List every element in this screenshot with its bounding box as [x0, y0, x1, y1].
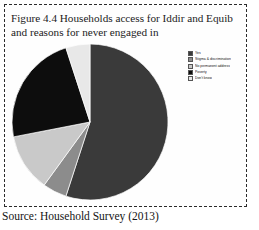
- legend-swatch-icon: [188, 64, 193, 69]
- legend-item: Stigma & discrimination: [188, 57, 246, 62]
- legend-item-label: Stigma & discrimination: [195, 57, 231, 62]
- legend-swatch-icon: [188, 70, 193, 75]
- legend-item: No permanent address: [188, 64, 246, 69]
- legend-item-label: Poverty: [195, 70, 207, 75]
- legend-swatch-icon: [188, 51, 193, 56]
- figure-frame: Figure 4.4 Households access for Iddir a…: [4, 4, 247, 207]
- pie-chart: YesStigma & discriminationNo permanent a…: [5, 5, 248, 208]
- legend-swatch-icon: [188, 76, 193, 81]
- source-caption: Source: Household Survey (2013): [2, 209, 159, 224]
- legend-item: Poverty: [188, 70, 246, 75]
- legend-swatch-icon: [188, 57, 193, 62]
- pie-chart-svg: [11, 41, 169, 203]
- pie-slice-group: [12, 44, 168, 200]
- chart-legend: YesStigma & discriminationNo permanent a…: [188, 51, 246, 82]
- legend-item-label: No permanent address: [195, 64, 230, 69]
- legend-item-label: Yes: [195, 51, 201, 56]
- legend-item: Don't know: [188, 76, 246, 81]
- legend-item-label: Don't know: [195, 76, 212, 81]
- legend-item: Yes: [188, 51, 246, 56]
